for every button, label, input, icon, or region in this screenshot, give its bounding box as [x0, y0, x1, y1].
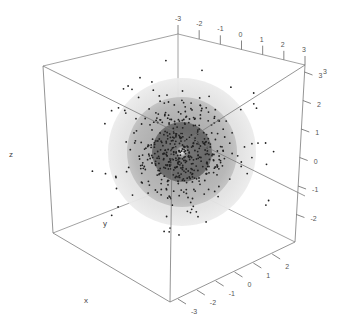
svg-text:1: 1: [266, 272, 270, 279]
svg-text:-2: -2: [310, 215, 316, 222]
svg-text:3: 3: [323, 68, 327, 75]
svg-text:3: 3: [302, 46, 306, 53]
svg-text:-1: -1: [312, 186, 318, 193]
y-axis-label: y: [103, 219, 107, 228]
3d-scatter-plot: -3-2-1012333210-1-2-3-2-1012 z y x: [0, 0, 342, 326]
svg-text:-1: -1: [229, 290, 235, 297]
svg-text:-2: -2: [210, 299, 216, 306]
x-axis-label: x: [84, 296, 88, 305]
svg-text:2: 2: [317, 101, 321, 108]
svg-text:0: 0: [239, 31, 243, 38]
z-axis-label: z: [9, 150, 13, 159]
svg-text:-3: -3: [175, 15, 181, 22]
svg-text:0: 0: [314, 158, 318, 165]
svg-text:-1: -1: [217, 25, 223, 32]
svg-text:0: 0: [248, 281, 252, 288]
svg-text:3: 3: [319, 72, 323, 79]
svg-text:1: 1: [315, 129, 319, 136]
svg-text:-2: -2: [196, 20, 202, 27]
svg-text:1: 1: [260, 36, 264, 43]
svg-text:-3: -3: [191, 308, 197, 315]
svg-text:2: 2: [281, 41, 285, 48]
svg-text:2: 2: [285, 263, 289, 270]
